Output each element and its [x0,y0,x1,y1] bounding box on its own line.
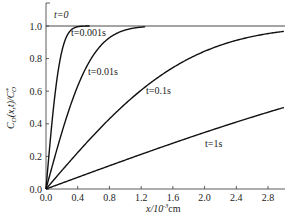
ylabel: CO(x,t)/C*O [4,87,18,129]
x-tick-label: 2.4 [230,192,243,203]
y-tick-label: 0.0 [30,184,43,195]
x-tick-label: 2.8 [262,192,275,203]
svg-text:x/10-3cm: x/10-3cm [145,203,181,214]
x-tick-label: 1.2 [135,192,148,203]
y-axis-title: CO(x,t)/C*O [4,87,18,129]
label-t1: t=1s [205,138,222,149]
y-tick-label: 0.2 [30,151,43,162]
chart: 0.00.40.81.21.62.02.42.8 0.00.20.40.60.8… [0,0,294,223]
y-tick-label: 0.8 [30,53,43,64]
x-axis-title: x/10-3cm [145,203,181,214]
y-tick-label: 0.6 [30,86,43,97]
x-tick-label: 1.6 [167,192,180,203]
xlabel-unit: cm [168,203,180,214]
y-tick-label: 1.0 [30,21,43,32]
x-ticks: 0.00.40.81.21.62.02.42.8 [40,186,275,203]
xlabel-main: x/10 [145,203,163,214]
label-t01: t=0.1s [146,85,171,96]
label-t0001: t=0.001s [71,27,106,38]
label-t0: t=0 [54,9,69,20]
curves [46,26,285,189]
x-tick-label: 2.0 [198,192,211,203]
curve-t01 [46,31,284,189]
label-t001: t=0.01s [88,66,118,77]
x-tick-label: 0.4 [71,192,84,203]
curve-t001 [46,27,145,189]
x-tick-label: 0.8 [103,192,116,203]
y-tick-label: 0.4 [30,118,43,129]
